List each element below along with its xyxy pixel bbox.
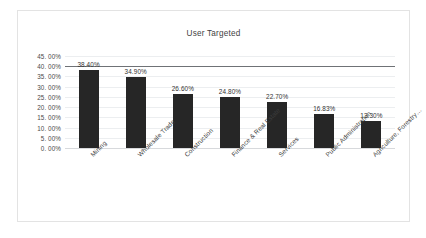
bar-value-label: 38.40% bbox=[77, 61, 99, 68]
y-axis-tick-label: 30. 00% bbox=[37, 83, 61, 90]
bar-slot: 16.83% bbox=[301, 56, 348, 148]
bar-slot: 34.90% bbox=[112, 56, 159, 148]
x-axis: MiningWholesale TradeConstructionFinance… bbox=[65, 149, 395, 219]
y-axis-tick-label: 0. 00% bbox=[41, 145, 61, 152]
y-axis-tick-label: 35. 00% bbox=[37, 73, 61, 80]
x-axis-slot: Construction bbox=[159, 149, 206, 219]
chart-container: User Targeted 45. 00%40. 00%35. 00%30. 0… bbox=[17, 10, 410, 222]
x-axis-slot: Finance & Real Estate bbox=[206, 149, 253, 219]
bar-slot: 24.80% bbox=[206, 56, 253, 148]
y-axis-tick-label: 45. 00% bbox=[37, 53, 61, 60]
y-axis-tick-label: 5. 00% bbox=[41, 134, 61, 141]
y-axis-tick-label: 10. 00% bbox=[37, 124, 61, 131]
bar[interactable] bbox=[220, 97, 240, 148]
x-axis-slot: Wholesale Trade bbox=[112, 149, 159, 219]
bar-value-label: 22.70% bbox=[266, 93, 288, 100]
x-axis-slot: Public Administration bbox=[301, 149, 348, 219]
y-axis-tick-label: 15. 00% bbox=[37, 114, 61, 121]
y-axis-tick-label: 25. 00% bbox=[37, 93, 61, 100]
bar-value-label: 34.90% bbox=[125, 68, 147, 75]
bar-slot: 26.60% bbox=[159, 56, 206, 148]
bar-slot: 38.40% bbox=[65, 56, 112, 148]
bar-value-label: 24.80% bbox=[219, 88, 241, 95]
x-axis-slot: Agriculture, Forestry… bbox=[348, 149, 395, 219]
y-axis: 45. 00%40. 00%35. 00%30. 00%25. 00%20. 0… bbox=[18, 56, 63, 148]
bar-slot: 22.70% bbox=[254, 56, 301, 148]
y-axis-tick-label: 20. 00% bbox=[37, 104, 61, 111]
bar-value-label: 16.83% bbox=[313, 105, 335, 112]
chart-title: User Targeted bbox=[18, 29, 409, 38]
bar[interactable] bbox=[173, 94, 193, 148]
y-axis-tick-label: 40. 00% bbox=[37, 63, 61, 70]
bar-value-label: 26.60% bbox=[172, 85, 194, 92]
bar[interactable] bbox=[314, 114, 334, 148]
bar[interactable] bbox=[126, 77, 146, 148]
x-axis-slot: Services bbox=[254, 149, 301, 219]
x-axis-slot: Mining bbox=[65, 149, 112, 219]
bar[interactable] bbox=[79, 70, 99, 149]
